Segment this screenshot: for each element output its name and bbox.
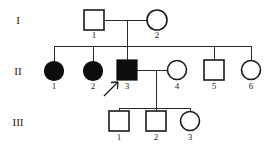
individual-II-3-label: 3 bbox=[125, 81, 130, 91]
pedigree-diagram: I II III 1 2 1 2 3 4 bbox=[0, 0, 279, 150]
individual-II-2-label: 2 bbox=[91, 81, 96, 91]
individual-II-3-symbol[interactable] bbox=[117, 60, 137, 80]
individual-II-2-symbol[interactable] bbox=[84, 62, 103, 81]
generation-label-1: I bbox=[16, 14, 20, 26]
individual-II-1-label: 1 bbox=[52, 81, 57, 91]
individual-II-4-label: 4 bbox=[175, 81, 180, 91]
generation-label-2: II bbox=[14, 65, 22, 77]
individual-III-2-label: 2 bbox=[154, 132, 159, 142]
proband-arrow-icon bbox=[104, 82, 118, 96]
individual-III-3-symbol[interactable] bbox=[181, 112, 200, 131]
individual-III-3-label: 3 bbox=[188, 132, 193, 142]
individual-I-2-label: 2 bbox=[155, 30, 160, 40]
individual-II-1-symbol[interactable] bbox=[45, 62, 64, 81]
individual-III-1-symbol[interactable] bbox=[109, 111, 129, 131]
individual-II-6-symbol[interactable] bbox=[242, 61, 261, 80]
individual-III-2-symbol[interactable] bbox=[146, 111, 166, 131]
individual-II-5-symbol[interactable] bbox=[204, 60, 224, 80]
individual-II-6-label: 6 bbox=[249, 81, 254, 91]
individual-I-2-symbol[interactable] bbox=[147, 10, 167, 30]
pedigree-chart: I II III 1 2 1 2 3 4 bbox=[0, 0, 279, 150]
individual-I-1-symbol[interactable] bbox=[84, 10, 104, 30]
individual-II-4-symbol[interactable] bbox=[168, 61, 187, 80]
individual-III-1-label: 1 bbox=[117, 132, 122, 142]
individual-I-1-label: 1 bbox=[92, 30, 97, 40]
individual-II-5-label: 5 bbox=[212, 81, 217, 91]
generation-label-3: III bbox=[13, 116, 24, 128]
